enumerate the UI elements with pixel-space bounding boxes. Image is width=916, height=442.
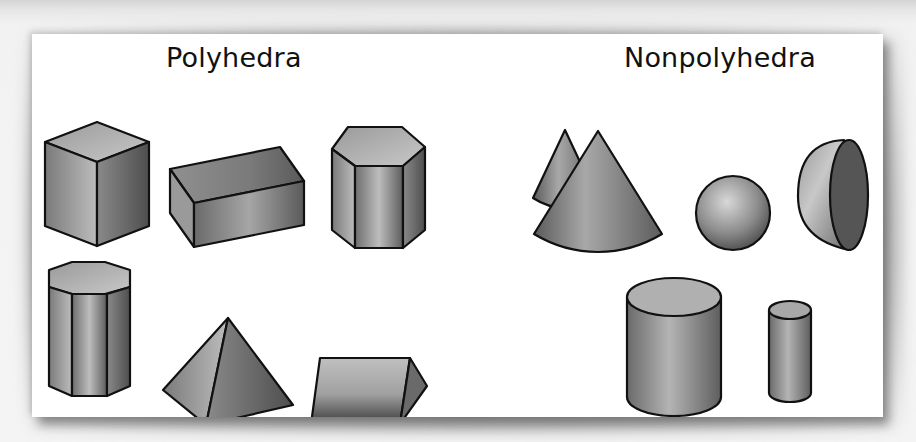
cylinder-shape <box>627 278 721 416</box>
triangular-prism-shape <box>311 358 427 417</box>
sphere-shape <box>696 176 770 250</box>
square-pyramid-shape <box>163 318 293 417</box>
figure-card: Polyhedra Nonpolyhedra <box>32 34 883 417</box>
narrow-cylinder-shape <box>769 301 811 402</box>
hemisphere-shape <box>798 140 868 250</box>
octagonal-prism-shape <box>49 262 130 396</box>
shapes-canvas <box>32 34 883 417</box>
rectangular-prism-shape <box>170 147 304 247</box>
hexagonal-prism-shape <box>332 127 425 248</box>
cube-shape <box>45 122 149 246</box>
